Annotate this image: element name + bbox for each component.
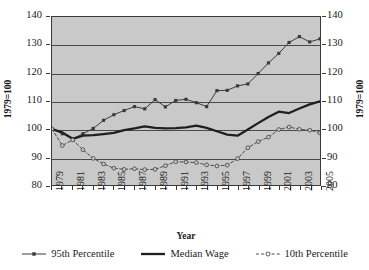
y-axis-tick-label: 130: [0, 38, 42, 49]
series-marker: [277, 52, 280, 55]
series-marker: [174, 99, 177, 102]
x-axis-tick-mark: [72, 186, 73, 190]
y-axis-tick-label: 130: [327, 38, 369, 49]
x-axis-tick-label: 2003: [304, 171, 314, 191]
legend-label: Median Wage: [170, 249, 228, 260]
series-marker: [102, 162, 106, 166]
x-axis-tick-label: 1995: [221, 171, 231, 191]
x-axis-tick-label: 1989: [159, 171, 169, 191]
y-axis-tick-label: 100: [0, 123, 42, 134]
series-marker: [246, 82, 249, 85]
x-axis-tick-mark: [51, 186, 52, 190]
series-marker: [256, 140, 260, 144]
y-axis-tick-mark: [322, 73, 326, 74]
series-marker: [92, 127, 95, 130]
y-axis-tick-label: 140: [327, 10, 369, 21]
series-marker: [123, 109, 126, 112]
x-axis-tick-label: 1991: [180, 171, 190, 191]
y-axis-tick-mark: [322, 101, 326, 102]
x-axis-tick-mark: [155, 186, 156, 190]
legend-label: 10th Percentile: [285, 249, 348, 260]
x-axis-tick-label: 1993: [200, 171, 210, 191]
x-axis-tick-mark: [238, 186, 239, 190]
x-axis-tick-label: 1999: [263, 171, 273, 191]
y-axis-tick-mark: [46, 101, 50, 102]
legend-item: Median Wage: [140, 249, 228, 260]
x-axis-tick-mark: [259, 186, 260, 190]
y-axis-tick-mark: [322, 158, 326, 159]
series-marker: [184, 98, 187, 101]
y-axis-tick-mark: [46, 129, 50, 130]
series-marker: [236, 84, 239, 87]
y-axis-tick-label: 140: [0, 10, 42, 21]
series-marker: [143, 107, 146, 110]
series-marker: [298, 35, 301, 38]
series-marker: [318, 131, 320, 135]
y-axis-tick-label: 90: [0, 152, 42, 163]
x-axis-tick-label: 1979: [55, 171, 65, 191]
y-axis-tick-label: 110: [327, 95, 369, 106]
series-marker: [153, 98, 156, 101]
y-axis-tick-mark: [322, 16, 326, 17]
y-axis-tick-mark: [46, 186, 50, 187]
chart-legend: 95th PercentileMedian Wage10th Percentil…: [0, 249, 369, 260]
legend-swatch: [21, 249, 47, 259]
x-axis-tick-label: 1997: [242, 171, 252, 191]
wage-index-line-chart: 1979=100 1979=100 1401301201101009080 14…: [0, 0, 369, 270]
x-axis-tick-label: 1987: [138, 171, 148, 191]
series-marker: [52, 127, 54, 131]
series-marker: [194, 161, 198, 165]
series-marker: [318, 37, 320, 40]
series-marker: [112, 113, 115, 116]
series-marker: [236, 157, 240, 161]
series-marker: [215, 89, 218, 92]
x-axis-tick-label: 1981: [76, 171, 86, 191]
series-marker: [297, 127, 301, 131]
series-marker: [102, 119, 105, 122]
series-marker: [308, 128, 312, 132]
y-axis-tick-mark: [322, 44, 326, 45]
series-marker: [133, 105, 136, 108]
series-marker: [205, 105, 208, 108]
series-marker: [277, 128, 281, 132]
y-axis-tick-mark: [46, 73, 50, 74]
series-marker: [308, 40, 311, 43]
series-marker: [225, 163, 229, 167]
series-marker: [71, 138, 75, 142]
series-marker: [184, 160, 188, 164]
legend-swatch: [140, 249, 166, 259]
y-axis-tick-mark: [46, 44, 50, 45]
x-axis-tick-mark: [279, 186, 280, 190]
legend-item: 10th Percentile: [255, 249, 348, 260]
series-marker: [153, 167, 157, 171]
series-marker: [205, 163, 209, 167]
legend-swatch: [255, 249, 281, 259]
series-marker: [246, 146, 250, 150]
series-marker: [287, 125, 291, 129]
y-axis-tick-label: 100: [327, 123, 369, 134]
series-marker: [226, 89, 229, 92]
x-axis-tick-mark: [217, 186, 218, 190]
series-marker: [257, 72, 260, 75]
series-marker: [133, 167, 137, 171]
x-axis-tick-label: 2001: [283, 171, 293, 191]
series-marker: [112, 166, 116, 170]
legend-item: 95th Percentile: [21, 249, 114, 260]
y-axis-tick-label: 80: [0, 180, 42, 191]
series-line: [52, 101, 320, 139]
x-axis-tick-mark: [134, 186, 135, 190]
y-axis-tick-label: 90: [327, 152, 369, 163]
series-marker: [215, 164, 219, 168]
series-marker: [164, 105, 167, 108]
series-marker: [267, 135, 271, 139]
y-axis-tick-mark: [46, 16, 50, 17]
series-marker: [81, 148, 85, 152]
series-marker: [195, 101, 198, 104]
y-axis-tick-label: 120: [0, 67, 42, 78]
legend-label: 95th Percentile: [51, 249, 114, 260]
y-axis-tick-label: 110: [0, 95, 42, 106]
y-axis-tick-mark: [322, 129, 326, 130]
x-axis-tick-mark: [113, 186, 114, 190]
series-marker: [163, 164, 167, 168]
series-marker: [60, 144, 64, 148]
